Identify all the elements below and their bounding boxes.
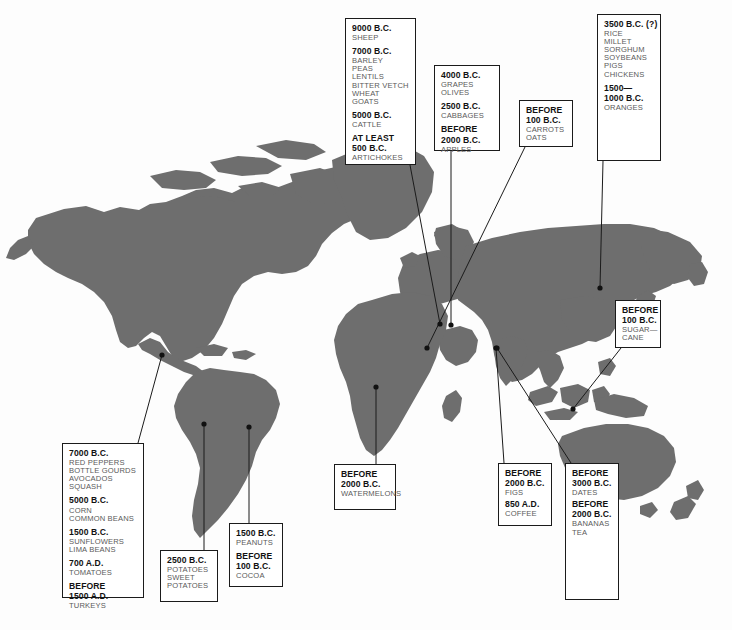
callout-brazil: 1500 B.C.PEANUTSBEFORE100 B.C.COCOA (229, 523, 283, 587)
callout-china: 3500 B.C. (?)RICEMILLETSORGHUMSOYBEANSPI… (597, 14, 661, 161)
callout-mediterranean: 4000 B.C.GRAPESOLIVES2500 B.C.CABBAGESBE… (434, 65, 500, 151)
anchor-dot-india (494, 345, 499, 350)
arctic-islands-1 (150, 170, 216, 190)
alaska-peninsula (6, 236, 34, 260)
callout-group: BEFORE2000 B.C.FIGS (505, 469, 545, 497)
anchor-dot-andes (201, 421, 206, 426)
leader-line-mesoamerica (138, 355, 162, 443)
callout-item: ORANGES (604, 104, 654, 112)
callout-group: BEFORE100 B.C.COCOA (236, 552, 276, 580)
callout-group: 1500 B.C.SUNFLOWERSLIMA BEANS (69, 528, 137, 554)
world-map-infographic: 9000 B.C.SHEEP7000 B.C.BARLEYPEASLENTILS… (0, 0, 732, 630)
anchor-dot-mediterranean (448, 322, 453, 327)
callout-item: FIGS (505, 489, 545, 497)
anchor-dot-brazil (246, 424, 251, 429)
callout-item: COCOA (236, 572, 276, 580)
caribbean-islands-2 (232, 350, 256, 360)
callout-item: LIMA BEANS (69, 546, 137, 554)
callout-item: DATES (572, 489, 612, 497)
callout-item: COMMON BEANS (69, 515, 137, 523)
callout-arabia: BEFORE2000 B.C.FIGS850 A.D.COFFEE (498, 463, 552, 526)
callout-item: CATTLE (352, 121, 409, 129)
callout-group: 850 A.D.COFFEE (505, 500, 545, 518)
anchor-dot-china (597, 285, 602, 290)
arctic-islands-2 (210, 156, 282, 176)
callout-item: OLIVES (441, 89, 493, 97)
callout-group: 2500 B.C.POTATOESSWEETPOTATOES (167, 556, 211, 590)
callout-item: OATS (526, 134, 566, 142)
callout-item: GOATS (352, 98, 409, 106)
callout-group: 9000 B.C.SHEEP (352, 24, 409, 42)
anchor-dot-new-guinea (570, 406, 575, 411)
callout-item: ARTICHOKES (352, 154, 409, 162)
tasmania-island (640, 502, 658, 518)
callout-item: SQUASH (69, 483, 137, 491)
callout-group: 1500—1000 B.C.ORANGES (604, 84, 654, 112)
callout-group: 4000 B.C.GRAPESOLIVES (441, 71, 493, 97)
arctic-islands-3 (256, 140, 326, 160)
madagascar-island (442, 390, 462, 422)
callout-item: APPLES (441, 146, 493, 154)
anchor-dot-near-east (437, 321, 442, 326)
callout-item: WATERMELONS (341, 490, 389, 498)
callout-andes: 2500 B.C.POTATOESSWEETPOTATOES (160, 550, 218, 602)
callout-item: CHICKENS (604, 71, 654, 79)
callout-india: BEFORE3000 B.C.DATESBEFORE2000 B.C.BANAN… (565, 463, 619, 600)
callout-mesoamerica: 7000 B.C.RED PEPPERSBOTTLE GOURDSAVOCADO… (62, 443, 144, 598)
callout-item: CABBAGES (441, 112, 493, 120)
callout-group: BEFORE100 B.C.SUGAR—CANE (622, 306, 654, 342)
callout-item: COFFEE (505, 510, 545, 518)
new-zealand-south (670, 496, 696, 520)
callout-near-east: 9000 B.C.SHEEP7000 B.C.BARLEYPEASLENTILS… (345, 18, 416, 165)
africa-landmass (334, 292, 448, 456)
callout-new-guinea: BEFORE100 B.C.SUGAR—CANE (615, 300, 661, 348)
kamchatka (688, 262, 708, 286)
callout-group: BEFORE2000 B.C.WATERMELONS (341, 470, 389, 498)
anchor-dot-central-asia (424, 345, 429, 350)
callout-item: TOMATOES (69, 569, 137, 577)
callout-group: BEFORE3000 B.C.DATES (572, 469, 612, 497)
callout-group: BEFORE100 B.C.CARROTSOATS (526, 106, 566, 142)
callout-item: TEA (572, 529, 612, 537)
callout-group: BEFORE1500 A.D.TURKEYS (69, 582, 137, 610)
callout-group: 7000 B.C.BARLEYPEASLENTILSBITTER VETCHWH… (352, 47, 409, 106)
callout-item: POTATOES (167, 582, 211, 590)
callout-central-asia: BEFORE100 B.C.CARROTSOATS (519, 100, 573, 147)
callout-item: CANE (622, 334, 654, 342)
callout-item: PEANUTS (236, 539, 276, 547)
callout-group: 700 A.D.TOMATOES (69, 559, 137, 577)
callout-africa: BEFORE2000 B.C.WATERMELONS (334, 464, 396, 510)
indochina-peninsula (536, 350, 564, 388)
callout-group: BEFORE2000 B.C.BANANASTEA (572, 500, 612, 536)
anchor-dot-mesoamerica (159, 352, 164, 357)
callout-item: SHEEP (352, 34, 409, 42)
callout-group: 5000 B.C.CORNCOMMON BEANS (69, 496, 137, 522)
borneo-island (560, 384, 590, 408)
callout-group: 1500 B.C.PEANUTS (236, 529, 276, 547)
callout-group: 3500 B.C. (?)RICEMILLETSORGHUMSOYBEANSPI… (604, 20, 654, 79)
south-america-landmass (174, 368, 280, 538)
callout-group: 5000 B.C.CATTLE (352, 111, 409, 129)
new-guinea-island (594, 394, 648, 418)
callout-item: TURKEYS (69, 602, 137, 610)
callout-group: BEFORE2000 B.C.APPLES (441, 125, 493, 153)
callout-group: 2500 B.C.CABBAGES (441, 102, 493, 120)
callout-group: AT LEAST500 B.C.ARTICHOKES (352, 134, 409, 162)
callout-group: 7000 B.C.RED PEPPERSBOTTLE GOURDSAVOCADO… (69, 449, 137, 491)
anchor-dot-africa (373, 384, 378, 389)
